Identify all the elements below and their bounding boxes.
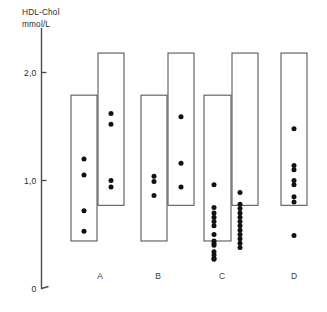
y-tick-label: 2,0 xyxy=(24,68,36,78)
data-dot xyxy=(238,215,243,220)
group-label-a: A xyxy=(97,271,103,281)
data-dot xyxy=(82,156,87,161)
y-axis-ticks: 01,02,0 xyxy=(24,68,46,294)
data-dot xyxy=(152,174,157,179)
data-dot xyxy=(238,210,243,215)
chart-container: HDL-Chol mmol/L 01,02,0 ABCD xyxy=(0,0,327,312)
data-dot xyxy=(82,229,87,234)
data-dot xyxy=(152,179,157,184)
data-dot xyxy=(212,232,217,237)
data-dot xyxy=(212,210,217,215)
data-dot xyxy=(212,182,217,187)
axis-title-group: HDL-Chol mmol/L xyxy=(22,7,60,29)
data-dot xyxy=(109,184,114,189)
group-label-d: D xyxy=(291,271,297,281)
y-tick-label: 1,0 xyxy=(24,176,36,186)
data-dot xyxy=(109,122,114,127)
y-tick-label: 0 xyxy=(32,284,37,294)
data-dot xyxy=(292,233,297,238)
data-dot xyxy=(238,190,243,195)
data-dot xyxy=(82,208,87,213)
data-dot xyxy=(238,228,243,233)
data-dot xyxy=(179,161,184,166)
box-a-left xyxy=(71,95,97,241)
data-dot xyxy=(238,219,243,224)
data-dot xyxy=(82,173,87,178)
data-dot xyxy=(212,215,217,220)
box-b-right xyxy=(168,53,194,205)
y-axis-title-line1: HDL-Chol xyxy=(22,7,60,17)
data-dot xyxy=(109,178,114,183)
data-dot xyxy=(292,167,297,172)
data-dot xyxy=(212,257,217,262)
group-labels: ABCD xyxy=(97,271,297,281)
data-dot xyxy=(238,202,243,207)
data-dot xyxy=(109,111,114,116)
data-dot xyxy=(292,126,297,131)
range-boxes xyxy=(71,53,307,241)
box-c-right xyxy=(232,53,258,205)
data-dot xyxy=(292,200,297,205)
data-dot xyxy=(212,223,217,228)
data-dot xyxy=(238,236,243,241)
data-dot xyxy=(292,163,297,168)
y-axis xyxy=(42,28,49,289)
y-axis-title-line2: mmol/L xyxy=(22,19,50,29)
data-dot xyxy=(292,194,297,199)
data-dot xyxy=(212,205,217,210)
data-dot xyxy=(179,114,184,119)
hdl-chol-scatter-chart: HDL-Chol mmol/L 01,02,0 ABCD xyxy=(0,0,327,312)
data-dot xyxy=(212,243,217,248)
box-b-left xyxy=(141,95,167,241)
group-label-c: C xyxy=(219,271,225,281)
data-dot xyxy=(179,184,184,189)
data-dot xyxy=(152,193,157,198)
data-dot xyxy=(238,223,243,228)
group-label-b: B xyxy=(155,271,161,281)
data-dot xyxy=(212,219,217,224)
data-dot xyxy=(238,245,243,250)
data-dot xyxy=(238,241,243,246)
data-dot xyxy=(238,232,243,237)
data-dot xyxy=(292,182,297,187)
box-c-left xyxy=(204,95,231,241)
data-dot xyxy=(238,206,243,211)
data-dot xyxy=(292,178,297,183)
